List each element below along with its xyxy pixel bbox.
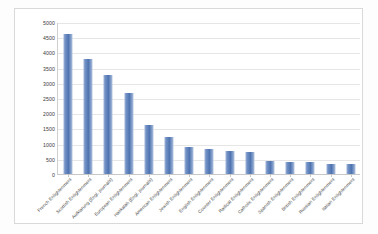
bar[interactable]	[104, 75, 113, 174]
x-axis-category-label: Haskalah (Engl. journals)	[113, 177, 154, 218]
y-axis-tick-labels: 0500100015002000250030003500400045005000	[29, 23, 57, 175]
x-axis-category-label: Counter Enlightenment	[197, 177, 235, 215]
bar-slot	[78, 23, 98, 174]
x-axis-category-label: French Enlightenment	[37, 177, 73, 213]
bar[interactable]	[165, 137, 174, 174]
bar-slot	[58, 23, 78, 174]
bar-slot	[240, 23, 260, 174]
y-axis-tick-label: 4500	[43, 35, 55, 41]
bar[interactable]	[84, 59, 93, 174]
bar[interactable]	[205, 149, 214, 174]
bar-slot	[341, 23, 361, 174]
x-axis-category-label: Scottish Enlightenment	[55, 177, 93, 215]
x-axis-category-label: Russian Enlightenment	[298, 177, 336, 215]
y-axis-tick-label: 3000	[43, 81, 55, 87]
y-axis-tick-label: 5000	[43, 20, 55, 26]
y-axis-tick-label: 2500	[43, 96, 55, 102]
x-axis-category-label: European Enlightenment	[93, 177, 133, 217]
y-axis-tick-label: 1000	[43, 142, 55, 148]
x-axis-category-label: American Enlightenment	[134, 177, 174, 217]
bar-slot	[119, 23, 139, 174]
bar[interactable]	[185, 147, 194, 174]
x-axis-category-label: Aufklarung (Engl. journals)	[70, 177, 113, 220]
y-axis-tick-label: 0	[52, 172, 55, 178]
bar-slot	[139, 23, 159, 174]
bar-slot	[159, 23, 179, 174]
bar[interactable]	[286, 162, 295, 174]
bar[interactable]	[326, 164, 335, 174]
bar-slot	[260, 23, 280, 174]
bar[interactable]	[124, 93, 133, 174]
chart-frame: 0500100015002000250030003500400045005000…	[14, 8, 363, 224]
bar[interactable]	[225, 151, 234, 174]
x-axis-category-label: Catholic Enlightenment	[237, 177, 275, 215]
plot-area	[57, 23, 360, 175]
chart-figure: 0500100015002000250030003500400045005000…	[0, 0, 378, 234]
y-axis-tick-label: 1500	[43, 126, 55, 132]
bar[interactable]	[306, 162, 315, 174]
bar-slot	[321, 23, 341, 174]
bar-slot	[179, 23, 199, 174]
bar[interactable]	[346, 164, 355, 174]
bar[interactable]	[64, 34, 73, 174]
bar-series	[58, 23, 360, 174]
x-axis-category-label: Radical Enlightenment	[218, 177, 255, 214]
bar[interactable]	[245, 152, 254, 174]
y-axis-tick-label: 500	[46, 157, 55, 163]
bar[interactable]	[266, 161, 275, 174]
x-axis-category-labels: French EnlightenmentScottish Enlightenme…	[57, 177, 360, 234]
y-axis-tick-label: 3500	[43, 66, 55, 72]
bar[interactable]	[144, 125, 153, 174]
bar-slot	[220, 23, 240, 174]
bar-slot	[98, 23, 118, 174]
bar-slot	[199, 23, 219, 174]
y-axis-tick-label: 2000	[43, 111, 55, 117]
bar-slot	[300, 23, 320, 174]
x-axis-category-label: Spanish Enlightenment	[257, 177, 295, 215]
bar-slot	[280, 23, 300, 174]
y-axis-tick-label: 4000	[43, 50, 55, 56]
